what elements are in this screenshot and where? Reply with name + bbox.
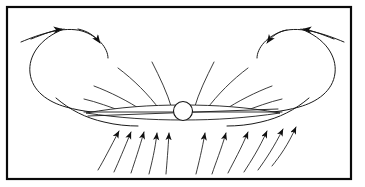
outer-border <box>7 7 351 179</box>
central-object-circle <box>174 102 193 121</box>
figure-container <box>0 0 365 187</box>
diagram-canvas <box>0 0 365 187</box>
